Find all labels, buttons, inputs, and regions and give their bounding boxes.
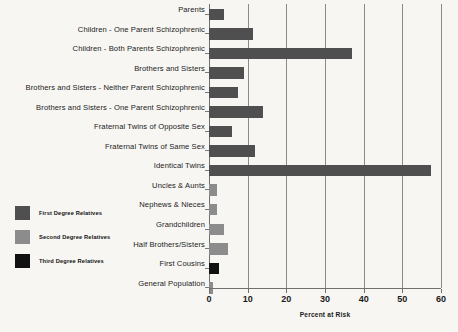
legend-label-third: Third Degree Relatives xyxy=(39,258,104,264)
bar-fill xyxy=(209,126,232,138)
bar xyxy=(209,145,255,157)
x-tick-40 xyxy=(364,289,365,293)
bar xyxy=(209,184,217,196)
bar xyxy=(209,165,431,177)
x-tick-label-40: 40 xyxy=(359,294,369,304)
bar-row: Fraternal Twins of Same Sex xyxy=(0,141,458,161)
bar-row: Identical Twins xyxy=(0,160,458,180)
bar-row: Children - One Parent Schizophrenic xyxy=(0,24,458,44)
category-label: Brothers and Sisters xyxy=(134,64,205,73)
bar-fill xyxy=(209,224,224,236)
category-label: Half Brothers/Sisters xyxy=(133,240,205,249)
bar xyxy=(209,106,263,118)
bar-fill xyxy=(209,165,431,177)
legend-label-first: First Degree Relatives xyxy=(39,210,102,216)
bar-fill xyxy=(209,9,224,21)
x-tick-label-20: 20 xyxy=(281,294,291,304)
bar-fill xyxy=(209,28,253,40)
category-label: Brothers and Sisters - One Parent Schizo… xyxy=(36,103,205,112)
bar xyxy=(209,126,232,138)
x-tick-label-60: 60 xyxy=(436,294,446,304)
x-tick-60 xyxy=(441,289,442,293)
bar xyxy=(209,87,238,99)
bar-rows: ParentsChildren - One Parent Schizophren… xyxy=(0,4,458,297)
bar-fill xyxy=(209,243,228,255)
bar-row: Parents xyxy=(0,4,458,24)
legend-swatch-second xyxy=(15,230,30,244)
bar-fill xyxy=(209,106,263,118)
bar-row: Fraternal Twins of Opposite Sex xyxy=(0,121,458,141)
category-label: Grandchildren xyxy=(156,220,205,229)
bar xyxy=(209,224,224,236)
x-tick-50 xyxy=(402,289,403,293)
x-tick-0 xyxy=(209,289,210,293)
x-axis-title: Percent at Risk xyxy=(209,311,441,318)
category-label: General Population xyxy=(138,279,205,288)
bar xyxy=(209,28,253,40)
bar-fill xyxy=(209,263,219,275)
bar xyxy=(209,263,219,275)
schizophrenia-risk-bar-chart: ParentsChildren - One Parent Schizophren… xyxy=(0,0,458,332)
category-label: Fraternal Twins of Opposite Sex xyxy=(94,122,205,131)
category-label: Nephews & Nieces xyxy=(139,200,205,209)
bar-row: Children - Both Parents Schizophrenic xyxy=(0,43,458,63)
bar xyxy=(209,48,352,60)
category-label: Identical Twins xyxy=(154,161,205,170)
x-tick-label-0: 0 xyxy=(206,294,211,304)
bar-row: Half Brothers/Sisters xyxy=(0,239,458,259)
x-tick-10 xyxy=(248,289,249,293)
bar xyxy=(209,243,228,255)
bar-fill xyxy=(209,87,238,99)
bar-row: Brothers and Sisters - One Parent Schizo… xyxy=(0,102,458,122)
bar xyxy=(209,9,224,21)
legend-swatch-third xyxy=(15,254,30,268)
bar-fill xyxy=(209,204,217,216)
bar-row: Brothers and Sisters xyxy=(0,63,458,83)
x-tick-label-50: 50 xyxy=(397,294,407,304)
legend-label-second: Second Degree Relatives xyxy=(39,234,110,240)
x-axis-ticks: 0102030405060 xyxy=(0,289,458,303)
bar-fill xyxy=(209,184,217,196)
x-tick-label-10: 10 xyxy=(243,294,253,304)
bar xyxy=(209,204,217,216)
legend-swatch-first xyxy=(15,206,30,220)
category-label: Uncles & Aunts xyxy=(152,181,205,190)
category-label: Brothers and Sisters - Neither Parent Sc… xyxy=(26,83,205,92)
category-label: Children - One Parent Schizophrenic xyxy=(78,25,205,34)
x-tick-30 xyxy=(325,289,326,293)
bar-fill xyxy=(209,145,255,157)
x-tick-label-30: 30 xyxy=(320,294,330,304)
bar-fill xyxy=(209,67,244,79)
bar-row: Brothers and Sisters - Neither Parent Sc… xyxy=(0,82,458,102)
category-label: Parents xyxy=(178,5,205,14)
category-label: First Cousins xyxy=(159,259,205,268)
bar xyxy=(209,67,244,79)
category-label: Children - Both Parents Schizophrenic xyxy=(73,44,205,53)
x-tick-20 xyxy=(286,289,287,293)
bar-row: Uncles & Aunts xyxy=(0,180,458,200)
category-label: Fraternal Twins of Same Sex xyxy=(105,142,205,151)
bar-fill xyxy=(209,48,352,60)
